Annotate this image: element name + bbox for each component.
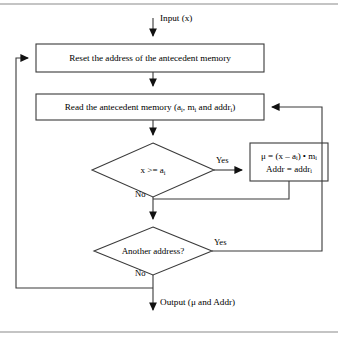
compare-diamond: x >= ai (112, 159, 194, 181)
formula-mu-mid: ) • m (298, 151, 316, 161)
read-box-sub-a: i (181, 106, 183, 113)
read-box: Read the antecedent memory (ai, mi and a… (36, 94, 264, 120)
read-box-text-prefix: Read the antecedent memory (a (65, 102, 181, 112)
read-box-text-suffix: ) (232, 102, 235, 112)
compare-text: x >= a (141, 165, 164, 175)
flowchart-figure: Reset the address of the antecedent memo… (0, 0, 338, 337)
formula-line-mu: μ = (x – ai) • mi (261, 151, 317, 161)
read-box-text-mid: , m (183, 102, 195, 112)
formula-mu-sub-a: i (296, 155, 298, 161)
another-no-label: No (135, 269, 146, 278)
output-label: Output (μ and Addr) (160, 297, 235, 307)
formula-mu-prefix: μ = (x – a (261, 151, 296, 161)
formula-addr-sub: i (310, 168, 312, 174)
compare-yes-label: Yes (216, 156, 229, 165)
formula-addr-prefix: Addr = addr (266, 164, 310, 174)
another-diamond: Another address? (96, 241, 210, 261)
compare-sub: i (164, 170, 166, 176)
another-diamond-label: Another address? (122, 246, 185, 256)
compare-no-label: No (135, 190, 146, 199)
edge-formula-to-merge (153, 181, 289, 199)
read-box-label: Read the antecedent memory (ai, mi and a… (36, 102, 264, 112)
read-box-text-mid2: and addr (196, 102, 230, 112)
input-label: Input (x) (160, 13, 192, 23)
read-box-sub-addr: i (230, 106, 232, 113)
formula-box: μ = (x – ai) • mi Addr = addri (250, 143, 328, 181)
formula-line-addr: Addr = addri (266, 164, 312, 174)
reset-box-label: Reset the address of the antecedent memo… (36, 53, 264, 63)
another-yes-label: Yes (214, 238, 227, 247)
compare-diamond-label: x >= ai (141, 165, 166, 175)
reset-box: Reset the address of the antecedent memo… (36, 44, 264, 72)
formula-mu-sub-m: i (315, 155, 317, 161)
